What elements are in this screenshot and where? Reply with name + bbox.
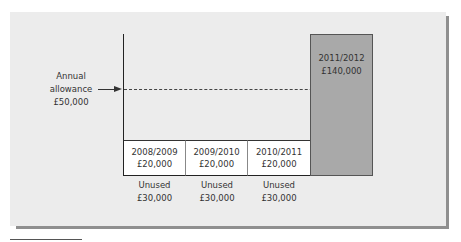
year-amount: £20,000 [261, 158, 296, 170]
year-label: 2008/2009 [131, 146, 177, 158]
year-box-2010-2011: 2010/2011 £20,000 [248, 140, 310, 176]
year-label: 2010/2011 [256, 146, 302, 158]
unused-label: Unused [201, 179, 233, 192]
year-amount: £20,000 [199, 158, 234, 170]
footnote-rule [10, 239, 82, 240]
arrow-right-icon [114, 86, 122, 92]
annual-allowance-label: Annual allowance £50,000 [36, 70, 106, 109]
unused-2009-2010: Unused £30,000 [186, 179, 248, 207]
unused-amount: £30,000 [137, 192, 172, 205]
unused-amount: £30,000 [261, 192, 296, 205]
bar-amount: £140,000 [321, 65, 362, 78]
year-amount: £20,000 [137, 158, 172, 170]
unused-amount: £30,000 [199, 192, 234, 205]
year-box-2008-2009: 2008/2009 £20,000 [123, 140, 186, 176]
annual-allowance-line2: allowance [36, 83, 106, 96]
unused-label: Unused [263, 179, 295, 192]
year-box-2009-2010: 2009/2010 £20,000 [186, 140, 248, 176]
unused-2008-2009: Unused £30,000 [123, 179, 186, 207]
year-label: 2009/2010 [193, 146, 239, 158]
unused-2010-2011: Unused £30,000 [248, 179, 310, 207]
annual-allowance-line1: Annual [36, 70, 106, 83]
bar-year-label: 2011/2012 [318, 52, 364, 65]
annual-allowance-value: £50,000 [36, 96, 106, 109]
highlight-bar-2011-2012: 2011/2012 £140,000 [310, 34, 373, 176]
unused-label: Unused [138, 179, 170, 192]
